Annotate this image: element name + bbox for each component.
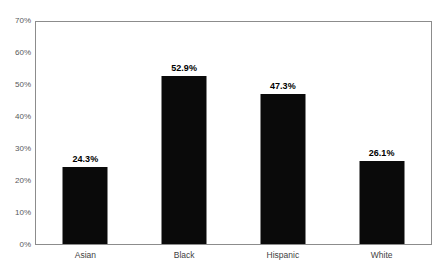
- y-axis-tick-label: 20%: [0, 177, 31, 185]
- x-axis-label-white: White: [371, 249, 393, 261]
- bar-value-label: 24.3%: [73, 154, 99, 164]
- y-axis-tick-label: 60%: [0, 49, 31, 57]
- y-axis: 70% 60% 50% 40% 30% 20% 10% 0%: [0, 21, 31, 245]
- y-axis-tick-label: 30%: [0, 145, 31, 153]
- bar-value-label: 52.9%: [171, 63, 197, 73]
- bar-chart: 70% 60% 50% 40% 30% 20% 10% 0% 24.3% 52.…: [0, 0, 444, 271]
- y-axis-tick-label: 0%: [0, 241, 31, 249]
- bar-white[interactable]: [359, 161, 404, 244]
- bar-value-label: 26.1%: [369, 148, 395, 158]
- x-axis-label-asian: Asian: [75, 249, 96, 261]
- y-axis-tick-label: 70%: [0, 17, 31, 25]
- bar-slot: 24.3%: [36, 22, 135, 244]
- y-axis-tick-label: 50%: [0, 81, 31, 89]
- bars-layer: 24.3% 52.9% 47.3% 26.1%: [36, 22, 431, 244]
- bar-value-label: 47.3%: [270, 81, 296, 91]
- bar-slot: 47.3%: [234, 22, 333, 244]
- bar-black[interactable]: [162, 76, 207, 244]
- bar-hispanic[interactable]: [260, 94, 305, 244]
- x-axis: Asian Black Hispanic White: [36, 249, 431, 265]
- bar-slot: 26.1%: [332, 22, 431, 244]
- bar-slot: 52.9%: [135, 22, 234, 244]
- x-axis-label-black: Black: [174, 249, 195, 261]
- y-axis-tick-label: 10%: [0, 209, 31, 217]
- x-axis-label-hispanic: Hispanic: [267, 249, 300, 261]
- bar-asian[interactable]: [63, 167, 108, 244]
- y-axis-tick-label: 40%: [0, 113, 31, 121]
